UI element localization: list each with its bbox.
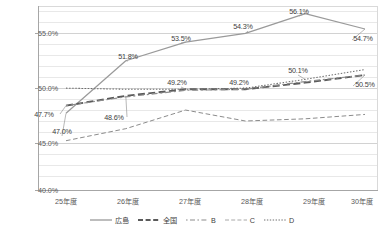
data-label-zenkoku-25: 47.7%	[34, 110, 54, 119]
gridline-minor	[38, 44, 378, 45]
legend-item-hiroshima[interactable]: 広島	[90, 215, 129, 225]
legend-label-zenkoku: 全国	[163, 215, 177, 225]
gridline-minor	[38, 66, 378, 67]
data-label-hiroshima-25: 47.0%	[52, 127, 72, 136]
x-axis-label-25: 25年度	[43, 196, 89, 206]
gridline-minor	[38, 121, 378, 122]
data-label-hiroshima-27: 53.5%	[171, 34, 191, 43]
x-axis-label-26: 26年度	[105, 196, 151, 206]
series-line-全国	[66, 75, 365, 106]
legend-label-d: D	[289, 216, 294, 225]
legend-swatch-hiroshima	[90, 216, 112, 224]
y-axis-label-40: 40.0%	[24, 186, 58, 195]
gridline-minor	[38, 165, 378, 166]
gridline-minor	[38, 154, 378, 155]
gridline-minor	[38, 110, 378, 111]
series-line-B	[66, 75, 365, 106]
data-label-hiroshima-28: 54.3%	[233, 22, 253, 31]
data-label-zenkoku-28: 49.2%	[229, 78, 249, 87]
data-label-hiroshima-29: 56.1%	[289, 7, 309, 16]
gridline-minor	[38, 132, 378, 133]
data-label-d-29: 50.1%	[288, 66, 308, 75]
data-label-zenkoku-26: 48.6%	[104, 113, 124, 122]
legend-item-zenkoku[interactable]: 全国	[138, 215, 177, 225]
x-axis-label-29: 29年度	[291, 196, 337, 206]
data-label-hiroshima-30: 54.7%	[353, 34, 373, 43]
legend-swatch-b	[186, 216, 208, 224]
data-label-zenkoku-30: 50.5%	[355, 80, 375, 89]
gridline-minor	[38, 176, 378, 177]
legend-label-c: C	[250, 216, 255, 225]
gridline-minor	[38, 55, 378, 56]
gridline-minor	[38, 99, 378, 100]
plot-border-right	[377, 6, 378, 191]
x-axis-label-28: 28年度	[229, 196, 275, 206]
legend-swatch-d	[264, 216, 286, 224]
x-axis-line	[38, 190, 378, 191]
y-axis-label-45: 45.0%	[24, 139, 58, 148]
y-axis-label-50: 50.0%	[24, 84, 58, 93]
series-line-D	[66, 70, 365, 90]
line-chart: 55.0% 50.0% 45.0% 40.0% 25年度 26年度 27年度 2…	[0, 0, 384, 234]
gridline-major-45	[38, 143, 378, 144]
gridline-minor	[38, 11, 378, 12]
gridline-minor	[38, 22, 378, 23]
legend-item-d[interactable]: D	[264, 216, 294, 225]
gridline-minor	[38, 77, 378, 78]
gridline-major-50	[38, 88, 378, 89]
legend-item-c[interactable]: C	[225, 216, 255, 225]
y-axis-label-55: 55.0%	[24, 29, 58, 38]
plot-border-top	[38, 6, 378, 7]
x-axis-label-27: 27年度	[167, 196, 213, 206]
x-axis-label-30: 30年度	[339, 196, 384, 206]
legend-label-b: B	[211, 216, 216, 225]
legend-swatch-c	[225, 216, 247, 224]
gridline-major-55	[38, 33, 378, 34]
legend-swatch-zenkoku	[138, 216, 160, 224]
data-label-zenkoku-27: 49.2%	[167, 78, 187, 87]
data-label-hiroshima-26: 51.8%	[118, 52, 138, 61]
legend-item-b[interactable]: B	[186, 216, 216, 225]
chart-legend: 広島 全国 B C D	[0, 215, 384, 225]
legend-label-hiroshima: 広島	[115, 215, 129, 225]
